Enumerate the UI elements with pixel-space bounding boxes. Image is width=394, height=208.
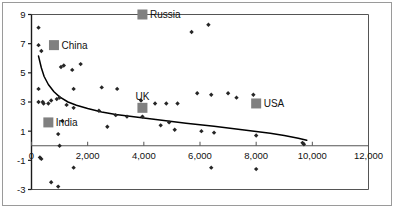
y-tick-label: 7	[20, 38, 25, 49]
country-label-uk: UK	[135, 91, 149, 102]
x-tick-label: 2,000	[76, 150, 100, 161]
y-tick-label: 3	[20, 96, 25, 107]
country-marker-china	[49, 40, 59, 50]
y-tick-label: 5	[20, 67, 25, 78]
x-tick-label: 8,000	[244, 150, 268, 161]
y-tick-label: 9	[20, 9, 25, 20]
country-marker-russia	[137, 10, 147, 20]
country-label-russia: Russia	[150, 9, 181, 20]
country-marker-uk	[137, 103, 147, 113]
x-tick-label: 4,000	[132, 150, 156, 161]
x-tick-label: 10,000	[298, 150, 327, 161]
country-label-usa: USA	[264, 98, 285, 109]
country-label-india: India	[56, 117, 78, 128]
chart-canvas: 02,0004,0006,0008,00010,00012,000 -3-113…	[0, 0, 394, 208]
x-tick-label: 0	[29, 150, 34, 161]
x-tick-label: 6,000	[188, 150, 212, 161]
y-tick-label: 1	[20, 126, 25, 137]
country-label-china: China	[61, 40, 88, 51]
scatter-chart: 02,0004,0006,0008,00010,00012,000 -3-113…	[0, 0, 394, 208]
country-marker-usa	[251, 98, 261, 108]
country-marker-india	[43, 117, 53, 127]
y-tick-label: -1	[17, 155, 25, 166]
y-tick-label: -3	[17, 184, 25, 195]
x-tick-label: 12,000	[354, 150, 383, 161]
chart-background	[0, 0, 394, 208]
